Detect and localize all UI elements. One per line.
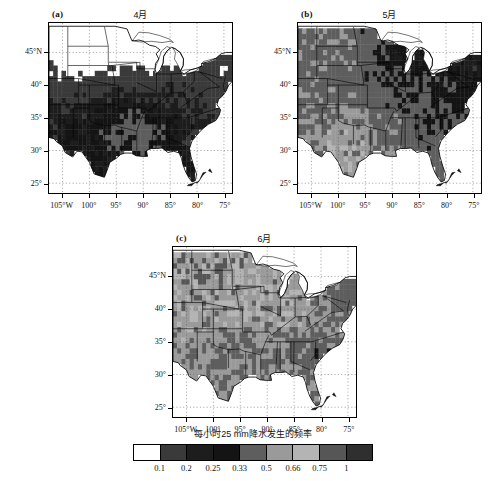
y-tick — [44, 52, 48, 53]
colorbar — [133, 444, 373, 461]
colorbar-tick-label-0: 0.1 — [146, 463, 174, 473]
colorbar-tick-label-7: 1 — [332, 463, 360, 473]
colorbar-swatch-2 — [187, 445, 214, 460]
x-tick — [365, 194, 366, 198]
y-axis-label: 45°N — [4, 47, 42, 56]
y-tick — [44, 184, 48, 185]
x-tick — [198, 194, 199, 198]
y-axis-label: 45°N — [128, 271, 166, 280]
y-tick — [293, 85, 297, 86]
y-tick — [168, 276, 172, 277]
colorbar-swatch-8 — [347, 445, 373, 460]
x-tick — [143, 194, 144, 198]
x-tick — [240, 418, 241, 422]
panel-a-plot-area — [48, 22, 233, 194]
x-tick — [170, 194, 171, 198]
x-axis-label: 75° — [203, 201, 247, 210]
x-tick — [186, 418, 187, 422]
x-tick — [267, 418, 268, 422]
panel-a-title: 4月 — [48, 8, 233, 21]
x-tick — [116, 194, 117, 198]
y-tick — [168, 375, 172, 376]
x-tick — [322, 418, 323, 422]
x-tick — [349, 418, 350, 422]
colorbar-tick-labels: 0.10.20.250.330.50.660.751 — [0, 463, 501, 477]
y-tick — [293, 52, 297, 53]
y-axis-label: 30° — [253, 146, 291, 155]
colorbar-tick-label-6: 0.75 — [306, 463, 334, 473]
panel-a-map — [49, 23, 232, 193]
panel-b-plot-area — [297, 22, 482, 194]
y-tick — [168, 408, 172, 409]
colorbar-swatch-4 — [240, 445, 267, 460]
colorbar-tick-label-3: 0.33 — [226, 463, 254, 473]
y-tick — [168, 309, 172, 310]
y-axis-label: 25° — [4, 179, 42, 188]
panel-b-map — [298, 23, 481, 193]
x-tick — [447, 194, 448, 198]
y-axis-label: 35° — [253, 113, 291, 122]
colorbar-swatch-3 — [214, 445, 241, 460]
y-tick — [293, 118, 297, 119]
colorbar-tick-label-4: 0.5 — [252, 463, 280, 473]
y-tick — [44, 118, 48, 119]
colorbar-swatch-0 — [134, 445, 161, 460]
y-axis-label: 40° — [253, 80, 291, 89]
panel-c-title: 6月 — [172, 232, 357, 245]
y-tick — [44, 85, 48, 86]
y-tick — [168, 342, 172, 343]
y-axis-label: 25° — [253, 179, 291, 188]
colorbar-tick-label-2: 0.25 — [199, 463, 227, 473]
x-tick — [62, 194, 63, 198]
x-tick — [474, 194, 475, 198]
panel-b-title: 5月 — [297, 8, 482, 21]
y-axis-label: 25° — [128, 403, 166, 412]
panel-a: (a) 4月 — [48, 22, 233, 194]
colorbar-swatch-7 — [320, 445, 347, 460]
x-tick — [338, 194, 339, 198]
panel-c: (c) 6月 — [172, 246, 357, 418]
x-tick — [419, 194, 420, 198]
x-axis-label: 75° — [327, 425, 371, 434]
panel-c-plot-area — [172, 246, 357, 418]
x-tick — [213, 418, 214, 422]
colorbar-tick-label-1: 0.2 — [172, 463, 200, 473]
y-axis-label: 35° — [128, 337, 166, 346]
x-tick — [225, 194, 226, 198]
y-tick — [293, 151, 297, 152]
colorbar-tick-label-5: 0.66 — [279, 463, 307, 473]
figure-precipitation-frequency-maps: (a) 4月 (b) 5月 (c) 6月 每小时25 mm降水发生的频率 0.1… — [0, 0, 501, 481]
colorbar-swatch-6 — [293, 445, 320, 460]
x-axis-label: 75° — [452, 201, 496, 210]
y-axis-label: 40° — [4, 80, 42, 89]
y-axis-label: 35° — [4, 113, 42, 122]
x-tick — [392, 194, 393, 198]
x-tick — [311, 194, 312, 198]
y-axis-label: 40° — [128, 304, 166, 313]
panel-b: (b) 5月 — [297, 22, 482, 194]
x-tick — [89, 194, 90, 198]
colorbar-swatch-1 — [161, 445, 188, 460]
panel-c-map — [173, 247, 356, 417]
y-axis-label: 30° — [128, 370, 166, 379]
y-tick — [293, 184, 297, 185]
y-axis-label: 45°N — [253, 47, 291, 56]
x-tick — [294, 418, 295, 422]
colorbar-swatch-5 — [267, 445, 294, 460]
y-tick — [44, 151, 48, 152]
y-axis-label: 30° — [4, 146, 42, 155]
